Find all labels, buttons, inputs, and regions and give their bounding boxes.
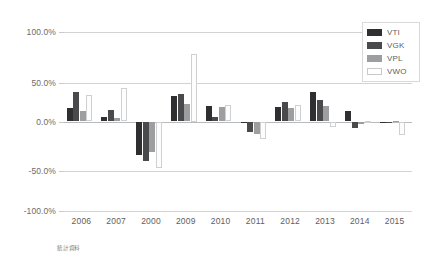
x-axis-label-2011: 2011 <box>238 216 272 226</box>
x-axis-label-2013: 2013 <box>308 216 342 226</box>
bar-vgk-2011 <box>247 122 253 132</box>
bar-vpl-2009 <box>184 104 190 122</box>
chart-legend: VTI VGK VPL VWO <box>362 22 420 82</box>
bar-vti-2007 <box>101 117 107 121</box>
bar-vti-2009 <box>171 96 177 122</box>
bar-vgk-2006 <box>73 92 79 122</box>
bar-vpl-2007 <box>114 118 120 121</box>
legend-item-vti: VTI <box>367 26 416 38</box>
x-axis-label-2012: 2012 <box>273 216 307 226</box>
legend-label-vti: VTI <box>387 28 400 37</box>
legend-swatch-vwo <box>367 68 382 75</box>
bar-vpl-2015 <box>393 121 399 122</box>
bar-vgk-2010 <box>212 117 218 121</box>
bar-vpl-2000 <box>149 122 155 153</box>
x-axis-label-2006: 2006 <box>64 216 98 226</box>
bar-vwo-2009 <box>191 54 197 121</box>
gridline-neg100 <box>64 211 412 212</box>
bar-vti-2010 <box>206 106 212 121</box>
bar-vwo-2000 <box>156 122 162 169</box>
bar-vgk-2000 <box>143 122 149 162</box>
bar-vgk-2014 <box>352 122 358 128</box>
bar-vwo-2010 <box>225 105 231 122</box>
legend-swatch-vti <box>367 29 382 36</box>
legend-label-vwo: VWO <box>387 67 407 76</box>
bar-vpl-2013 <box>323 106 329 121</box>
bar-vwo-2014 <box>365 121 371 123</box>
legend-item-vgk: VGK <box>367 39 416 51</box>
bar-vpl-2012 <box>288 108 294 122</box>
bar-vwo-2007 <box>121 88 127 121</box>
bar-vgk-2012 <box>282 102 288 121</box>
bar-vti-2011 <box>241 122 247 123</box>
x-axis-label-2007: 2007 <box>99 216 133 226</box>
x-axis-label-2010: 2010 <box>204 216 238 226</box>
y-axis-label-neg100: -100.0% <box>0 207 56 216</box>
y-axis-label-100: 100.0% <box>0 28 56 37</box>
bar-vti-2015 <box>380 122 386 123</box>
legend-item-vwo: VWO <box>367 65 416 77</box>
bar-vgk-2015 <box>386 122 392 123</box>
legend-item-vpl: VPL <box>367 52 416 64</box>
bar-vti-2012 <box>275 107 281 121</box>
bar-vgk-2009 <box>178 94 184 122</box>
bar-vgk-2013 <box>317 100 323 121</box>
bar-vpl-2006 <box>80 111 86 122</box>
bar-vti-2006 <box>67 108 73 122</box>
bar-vti-2013 <box>310 92 316 122</box>
bar-vti-2014 <box>345 111 351 121</box>
legend-swatch-vpl <box>367 55 382 62</box>
x-axis-label-2015: 2015 <box>378 216 412 226</box>
y-axis-label-50: 50.0% <box>0 79 56 88</box>
bar-vpl-2010 <box>219 107 225 122</box>
x-axis-label-2014: 2014 <box>343 216 377 226</box>
bar-vwo-2013 <box>330 122 336 128</box>
bar-vpl-2014 <box>358 122 364 125</box>
legend-swatch-vgk <box>367 42 382 49</box>
chart-caption: 統計資料 <box>57 245 80 252</box>
x-axis-label-2000: 2000 <box>134 216 168 226</box>
bar-vti-2000 <box>136 122 142 155</box>
legend-label-vpl: VPL <box>387 54 403 63</box>
bar-vpl-2011 <box>254 122 260 135</box>
gridline-100 <box>64 32 412 33</box>
bar-vwo-2012 <box>295 105 301 122</box>
chart-container: 100.0% 50.0% 0.0% -50.0% -100.0% 2006200… <box>0 0 423 263</box>
y-axis-label-0: 0.0% <box>0 118 56 127</box>
y-axis-label-neg50: -50.0% <box>0 167 56 176</box>
gridline-neg50 <box>64 171 412 172</box>
gridline-50 <box>64 83 412 84</box>
x-axis-label-2009: 2009 <box>169 216 203 226</box>
bar-vwo-2011 <box>260 122 266 139</box>
bar-vwo-2006 <box>86 95 92 121</box>
bar-vwo-2015 <box>399 122 405 136</box>
bar-vgk-2007 <box>108 110 114 122</box>
legend-label-vgk: VGK <box>387 41 405 50</box>
plot-area <box>64 32 412 211</box>
